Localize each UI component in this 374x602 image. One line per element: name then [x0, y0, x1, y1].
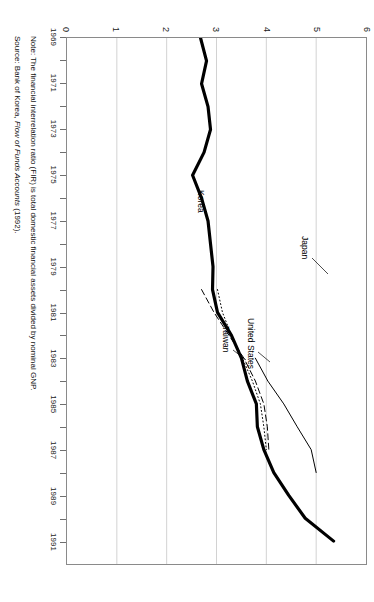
note-body: The financial interrelation ratio (FIR) … [29, 57, 38, 390]
source-org: Bank of Korea, [13, 66, 22, 119]
label-leader-lines [0, 0, 374, 602]
note-prefix: Note: [29, 36, 38, 55]
source-publication: Flow of Funds Accounts [13, 121, 22, 206]
source-year: (1992). [13, 208, 22, 233]
chart-figure: 1969197119731975197719791981198319851987… [0, 0, 374, 602]
source-prefix: Source: [13, 36, 22, 64]
rotated-figure-wrapper: 1969197119731975197719791981198319851987… [0, 0, 374, 602]
note-text: Note: The financial interrelation ratio … [29, 36, 38, 391]
source-text: Source: Bank of Korea, Flow of Funds Acc… [13, 36, 22, 234]
